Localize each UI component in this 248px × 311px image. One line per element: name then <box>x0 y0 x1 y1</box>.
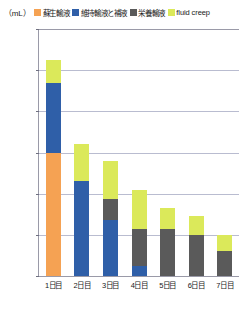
x-tick-label-5: 5日目 <box>159 279 176 290</box>
bar-segment <box>189 235 204 276</box>
bar-slot-6 <box>182 29 211 276</box>
legend-label-fluid-creep: fluid creep <box>176 8 210 17</box>
legend-item-0: 蘇生輸液 <box>34 7 69 18</box>
legend-item-3: fluid creep <box>168 8 210 17</box>
plot-area: 01,0002,0003,0004,0005,0006,000 1日目2日目3日… <box>38 29 239 277</box>
stacked-bar-5日目[interactable] <box>160 208 175 276</box>
legend-item-2: 栄養輸液 <box>130 7 165 18</box>
bar-segment <box>46 83 61 153</box>
legend-label-maintenance-fluid: 維持輸液と補液 <box>81 7 127 18</box>
bar-slot-2 <box>68 29 97 276</box>
legend-swatch-nutritional-fluid <box>130 9 137 16</box>
bar-slot-1 <box>39 29 68 276</box>
legend-item-1: 維持輸液と補液 <box>72 7 127 18</box>
x-tick-label-3: 3日目 <box>102 279 119 290</box>
chart-legend: （mL） 蘇生輸液 維持輸液と補液 栄養輸液 fluid creep <box>0 5 248 19</box>
bar-segment <box>132 190 147 229</box>
bar-group <box>39 29 239 276</box>
bar-slot-4 <box>125 29 154 276</box>
bar-segment <box>189 216 204 235</box>
bar-segment <box>74 181 89 276</box>
bar-slot-5 <box>153 29 182 276</box>
bar-segment <box>103 161 118 199</box>
bar-segment <box>103 199 118 220</box>
bar-segment <box>46 153 61 277</box>
y-axis-unit-label: （mL） <box>4 7 30 18</box>
bar-segment <box>74 144 89 181</box>
legend-swatch-resuscitation-fluid <box>34 9 41 16</box>
stacked-bar-2日目[interactable] <box>74 144 89 276</box>
stacked-bar-3日目[interactable] <box>103 161 118 276</box>
bar-segment <box>217 251 232 276</box>
bar-segment <box>103 220 118 276</box>
x-tick-label-7: 7日目 <box>216 279 233 290</box>
stacked-bar-7日目[interactable] <box>217 235 232 276</box>
x-tick-label-1: 1日目 <box>45 279 62 290</box>
bar-segment <box>160 208 175 229</box>
x-tick-label-6: 6日目 <box>188 279 205 290</box>
bar-segment <box>132 266 147 276</box>
bar-segment <box>46 60 61 83</box>
y-tick-mark-0 <box>36 276 39 277</box>
stacked-bar-4日目[interactable] <box>132 190 147 276</box>
bar-segment <box>217 235 232 251</box>
legend-swatch-maintenance-fluid <box>72 9 79 16</box>
legend-label-nutritional-fluid: 栄養輸液 <box>138 7 164 18</box>
bar-segment <box>132 229 147 266</box>
bar-slot-3 <box>96 29 125 276</box>
bar-chart: （mL） 蘇生輸液 維持輸液と補液 栄養輸液 fluid creep 01,00… <box>0 0 248 311</box>
x-tick-label-2: 2日目 <box>74 279 91 290</box>
stacked-bar-6日目[interactable] <box>189 216 204 276</box>
bar-segment <box>160 229 175 276</box>
legend-swatch-fluid-creep <box>168 9 175 16</box>
legend-label-resuscitation-fluid: 蘇生輸液 <box>43 7 69 18</box>
x-tick-label-4: 4日目 <box>131 279 148 290</box>
bar-slot-7 <box>210 29 239 276</box>
stacked-bar-1日目[interactable] <box>46 60 61 276</box>
